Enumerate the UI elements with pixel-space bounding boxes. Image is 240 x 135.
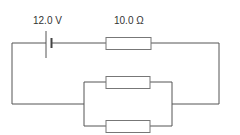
series-resistor-label: 10.0 Ω xyxy=(114,15,144,26)
battery-label: 12.0 V xyxy=(33,15,62,26)
wire-parallel-right xyxy=(150,82,172,126)
parallel-resistor-lower xyxy=(106,121,150,133)
wire-left-top xyxy=(12,43,46,104)
wire-right xyxy=(151,43,219,104)
series-resistor xyxy=(106,38,151,50)
circuit-diagram: 12.0 V 10.0 Ω xyxy=(0,0,240,135)
battery-cell xyxy=(46,31,52,58)
wire-parallel-left xyxy=(84,82,106,126)
parallel-resistor-upper xyxy=(106,77,150,89)
